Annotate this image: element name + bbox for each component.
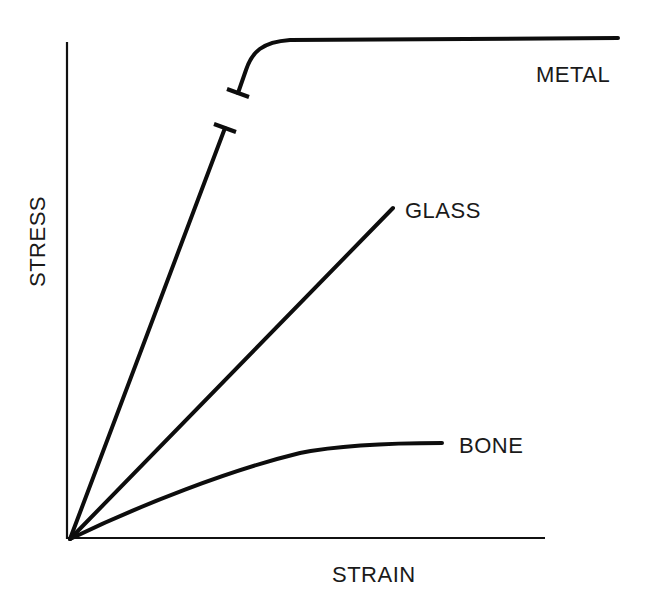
glass-curve — [70, 208, 393, 539]
stress-strain-chart: METAL GLASS BONE STRAIN STRESS — [0, 0, 653, 598]
bone-label: BONE — [459, 433, 523, 458]
metal-label: METAL — [536, 62, 610, 87]
metal-curve-lower — [70, 128, 225, 539]
glass-label: GLASS — [405, 198, 481, 223]
bone-curve — [70, 443, 442, 539]
x-axis-label: STRAIN — [332, 562, 416, 587]
y-axis-label: STRESS — [25, 196, 50, 287]
